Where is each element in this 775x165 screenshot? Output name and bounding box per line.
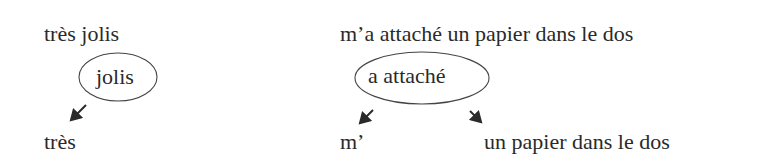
- right-dependent-2: un papier dans le dos: [484, 131, 670, 153]
- left-dependent: très: [44, 131, 76, 153]
- left-head: jolis: [96, 66, 134, 88]
- left-phrase: très jolis: [44, 23, 119, 45]
- right-phrase: m’a attaché un papier dans le dos: [340, 23, 633, 45]
- right-dependent-1: m’: [340, 131, 364, 153]
- right-head: a attaché: [368, 65, 446, 87]
- arrow-left-icon: [71, 105, 86, 120]
- arrow-down-left-icon: [360, 110, 373, 123]
- arrow-down-right-icon: [470, 111, 481, 122]
